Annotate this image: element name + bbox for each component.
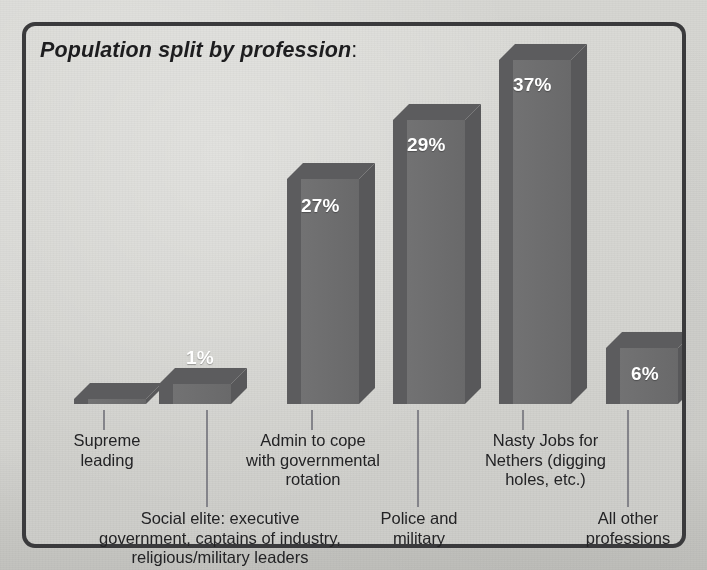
bars-group <box>74 44 682 404</box>
bar-top-face <box>606 332 682 348</box>
bar-side-face <box>465 104 481 404</box>
bar-left-shade <box>606 348 620 404</box>
bar-supreme-leading <box>74 383 162 404</box>
bar-left-shade <box>74 399 88 404</box>
category-label-social-elite: Social elite: executive government, capt… <box>38 509 402 568</box>
category-label-nasty-jobs: Nasty Jobs for Nethers (digging holes, e… <box>458 431 633 490</box>
chart-panel: Population split by profession: <box>22 22 686 548</box>
bar-left-shade <box>499 60 513 404</box>
bar-left-shade <box>159 384 173 404</box>
bar-nasty-jobs <box>499 44 587 404</box>
bar-value-nasty-jobs: 37% <box>513 74 552 96</box>
category-label-admin-rotation: Admin to cope with governmental rotation <box>214 431 412 490</box>
bar-side-face <box>359 163 375 404</box>
bar-value-social-elite: 1% <box>186 347 214 369</box>
bar-left-shade <box>393 120 407 404</box>
category-label-all-other-professions: All other professions <box>564 509 692 548</box>
bar-left-shade <box>287 179 301 404</box>
category-label-supreme-leading: Supreme leading <box>34 431 180 470</box>
bar-value-admin-rotation: 27% <box>301 195 340 217</box>
bar-chart-plot: 1% 27% 29% 37% 6% Supreme leading Social… <box>26 26 682 544</box>
bar-social-elite <box>159 368 247 404</box>
bar-value-police-military: 29% <box>407 134 446 156</box>
bar-side-face <box>571 44 587 404</box>
bar-value-all-other-professions: 6% <box>631 363 659 385</box>
page-canvas: Population split by profession: <box>0 0 707 570</box>
category-label-police-military: Police and military <box>354 509 484 548</box>
